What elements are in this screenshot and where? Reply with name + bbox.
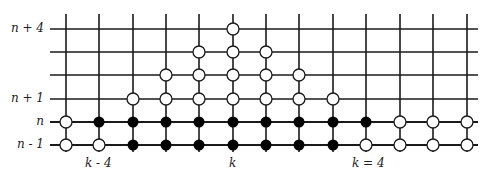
filled-node [161, 117, 172, 128]
column-label: k [229, 156, 236, 170]
open-node [193, 69, 205, 81]
open-node [461, 139, 473, 151]
row-label: n + 4 [0, 21, 44, 35]
open-node [260, 69, 272, 81]
open-node [193, 46, 205, 58]
open-node [293, 69, 305, 81]
open-node [160, 93, 172, 105]
filled-node [328, 117, 339, 128]
filled-node [361, 117, 372, 128]
lattice-diagram [0, 0, 490, 178]
open-node [227, 46, 239, 58]
open-node [394, 116, 406, 128]
open-node [427, 139, 439, 151]
filled-node [261, 117, 272, 128]
open-node [327, 93, 339, 105]
open-node [93, 139, 105, 151]
grid-lines [50, 14, 478, 152]
filled-node [161, 140, 172, 151]
filled-node [328, 140, 339, 151]
open-node [127, 93, 139, 105]
open-node [227, 93, 239, 105]
open-node [227, 69, 239, 81]
filled-node [294, 117, 305, 128]
filled-node [261, 140, 272, 151]
open-node [60, 116, 72, 128]
open-node [60, 139, 72, 151]
open-node [260, 93, 272, 105]
open-node [193, 93, 205, 105]
open-node [461, 116, 473, 128]
filled-node [228, 140, 239, 151]
open-node [160, 69, 172, 81]
column-label: k - 4 [85, 156, 112, 170]
row-label: n - 1 [0, 137, 44, 151]
filled-node [228, 117, 239, 128]
open-node [293, 93, 305, 105]
open-node [360, 139, 372, 151]
filled-node [194, 117, 205, 128]
row-label: n + 1 [0, 91, 44, 105]
filled-node [294, 140, 305, 151]
column-label: k = 4 [352, 156, 385, 170]
filled-node [194, 140, 205, 151]
filled-node [94, 117, 105, 128]
open-node [394, 139, 406, 151]
filled-node [128, 140, 139, 151]
row-label: n [0, 114, 44, 128]
open-node [427, 116, 439, 128]
open-node [227, 23, 239, 35]
filled-node [128, 117, 139, 128]
open-node [260, 46, 272, 58]
